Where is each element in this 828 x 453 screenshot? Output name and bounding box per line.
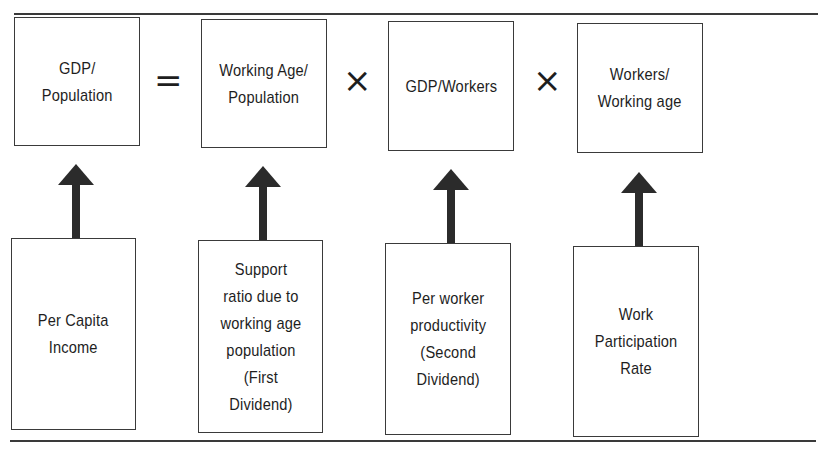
- up-arrow-icon-3: [431, 169, 471, 244]
- label-working-age-population: Working Age/ Population: [220, 57, 309, 111]
- box-work-participation-rate: Work Participation Rate: [573, 246, 699, 437]
- equals-operator: =: [154, 63, 183, 97]
- box-gdp-population: GDP/ Population: [14, 17, 140, 146]
- label-per-worker-productivity: Per worker productivity (Second Dividend…: [410, 285, 486, 393]
- box-gdp-workers: GDP/Workers: [388, 21, 514, 151]
- label-workers-working-age: Workers/ Working age: [598, 61, 682, 115]
- label-gdp-workers: GDP/Workers: [405, 73, 497, 100]
- box-support-ratio: Support ratio due to working age populat…: [198, 240, 323, 433]
- label-work-participation-rate: Work Participation Rate: [595, 301, 678, 382]
- label-per-capita-income: Per Capita Income: [38, 307, 109, 361]
- top-rule: [14, 13, 818, 15]
- label-support-ratio: Support ratio due to working age populat…: [220, 256, 301, 418]
- up-arrow-icon-1: [56, 164, 96, 239]
- up-arrow-icon-4: [619, 172, 659, 247]
- bottom-rule: [10, 440, 816, 442]
- multiply-operator-1: ×: [343, 63, 372, 97]
- label-gdp-population: GDP/ Population: [42, 55, 113, 109]
- box-per-capita-income: Per Capita Income: [11, 238, 136, 430]
- box-working-age-population: Working Age/ Population: [201, 19, 327, 148]
- up-arrow-icon-2: [243, 166, 283, 241]
- multiply-operator-2: ×: [533, 63, 562, 97]
- box-per-worker-productivity: Per worker productivity (Second Dividend…: [385, 243, 511, 435]
- box-workers-working-age: Workers/ Working age: [577, 23, 703, 153]
